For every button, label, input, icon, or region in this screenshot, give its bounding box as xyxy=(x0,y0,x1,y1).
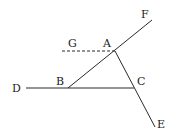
label-f: F xyxy=(141,8,149,21)
label-b: B xyxy=(56,75,64,88)
line-ae xyxy=(115,51,155,127)
label-a: A xyxy=(102,37,112,50)
geometry-diagram: F G A D B C E xyxy=(0,0,174,136)
label-g: G xyxy=(68,37,77,50)
label-c: C xyxy=(137,75,145,88)
label-e: E xyxy=(157,118,165,131)
label-d: D xyxy=(12,82,21,95)
